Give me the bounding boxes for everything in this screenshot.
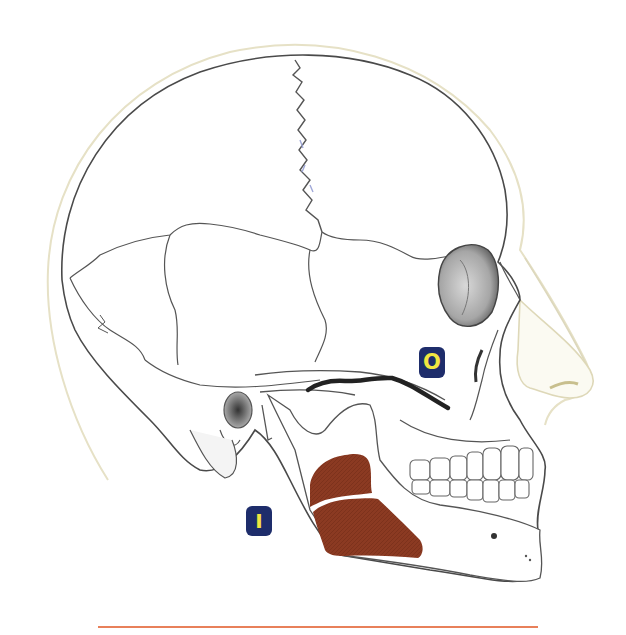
mental-foramen bbox=[491, 533, 497, 539]
origin-label: O bbox=[419, 347, 445, 378]
insertion-label-text: I bbox=[255, 511, 262, 531]
bottom-divider bbox=[98, 626, 538, 628]
insertion-label: I bbox=[246, 506, 272, 536]
nose bbox=[517, 300, 593, 398]
origin-label-text: O bbox=[423, 352, 441, 373]
anatomy-figure: O I bbox=[0, 0, 626, 635]
skull-illustration bbox=[0, 0, 626, 635]
orbit bbox=[438, 245, 498, 326]
